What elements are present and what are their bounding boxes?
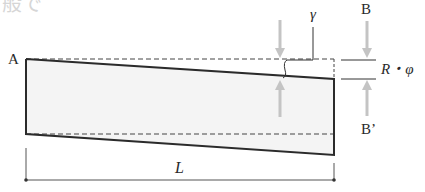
beam-deformation-diagram [0,0,425,192]
label-gamma: γ [310,7,316,22]
deformed-beam-body [26,59,334,155]
label-r-phi: R・φ [381,62,413,77]
label-point-b-prime: B’ [361,122,376,137]
dimension-endpoint-right [332,178,336,182]
gamma-leader-line [283,27,313,78]
label-point-b: B [361,2,371,17]
dimension-endpoint-left [24,178,28,182]
label-point-a: A [8,52,19,67]
rotation-arrows-right [362,21,372,116]
label-length: L [175,160,184,176]
